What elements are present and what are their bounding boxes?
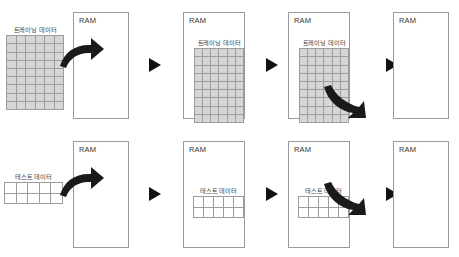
grid-cell — [300, 49, 308, 57]
grid-cell — [316, 73, 324, 81]
ram-label: RAM — [189, 17, 206, 25]
ram-label: RAM — [79, 17, 96, 25]
grid-cell — [195, 49, 203, 57]
grid-cell — [16, 60, 26, 68]
grid-cell — [26, 77, 36, 85]
load-into-ram-arrow — [58, 165, 106, 205]
table-row — [195, 106, 244, 114]
grid-cell — [211, 81, 219, 89]
grid-cell — [7, 44, 17, 52]
grid-cell — [235, 65, 243, 73]
grid-cell — [332, 65, 340, 73]
grid-cell — [195, 98, 203, 106]
grid-cell — [332, 49, 340, 57]
ram-label: RAM — [294, 146, 311, 154]
grid-cell — [16, 52, 26, 60]
grid-cell — [308, 114, 316, 122]
ram-label: RAM — [189, 146, 206, 154]
grid-cell — [214, 197, 224, 208]
grid-cell — [219, 81, 227, 89]
grid-cell — [203, 73, 211, 81]
grid-cell — [194, 207, 204, 218]
step-separator-triangle — [265, 57, 279, 73]
table-row — [5, 183, 63, 194]
grid-cell — [5, 193, 17, 204]
grid-cell — [203, 57, 211, 65]
table-row — [7, 77, 64, 85]
grid-cell — [26, 36, 36, 44]
training-data-label: 트레이닝 데이터 — [194, 40, 244, 46]
grid-cell — [203, 90, 211, 98]
grid-cell — [227, 106, 235, 114]
grid-cell — [7, 60, 17, 68]
ram-label: RAM — [399, 17, 416, 25]
grid-cell — [235, 73, 243, 81]
training-step-3-panel: RAM 트레이닝 데이터 — [280, 0, 375, 128]
grid-cell — [308, 106, 316, 114]
training-data-block-inside: 트레이닝 데이터 — [194, 40, 244, 123]
ram-label: RAM — [399, 146, 416, 154]
grid-cell — [211, 90, 219, 98]
grid-cell — [219, 98, 227, 106]
grid-cell — [26, 44, 36, 52]
grid-cell — [54, 85, 64, 93]
grid-cell — [211, 57, 219, 65]
grid-cell — [45, 101, 55, 109]
grid-cell — [35, 52, 45, 60]
table-row — [7, 93, 64, 101]
grid-cell — [332, 57, 340, 65]
grid-cell — [16, 183, 28, 194]
table-row — [300, 49, 349, 57]
grid-cell — [195, 57, 203, 65]
grid-cell — [16, 44, 26, 52]
grid-cell — [227, 65, 235, 73]
grid-cell — [54, 101, 64, 109]
table-row — [194, 197, 244, 208]
grid-cell — [7, 36, 17, 44]
grid-cell — [235, 49, 243, 57]
grid-cell — [26, 60, 36, 68]
table-row — [195, 90, 244, 98]
grid-cell — [340, 73, 348, 81]
ram-label: RAM — [294, 17, 311, 25]
training-grid-body — [195, 49, 244, 123]
grid-cell — [28, 193, 40, 204]
grid-cell — [35, 60, 45, 68]
grid-cell — [211, 73, 219, 81]
grid-cell — [219, 65, 227, 73]
grid-cell — [324, 49, 332, 57]
grid-cell — [45, 68, 55, 76]
table-row — [5, 193, 63, 204]
grid-cell — [308, 49, 316, 57]
grid-cell — [195, 90, 203, 98]
grid-cell — [308, 73, 316, 81]
grid-cell — [204, 207, 214, 218]
grid-cell — [35, 85, 45, 93]
grid-cell — [316, 57, 324, 65]
ram-box: RAM 트레이닝 데이터 — [183, 12, 245, 119]
table-row — [300, 73, 349, 81]
grid-cell — [227, 114, 235, 122]
grid-cell — [324, 65, 332, 73]
grid-cell — [308, 81, 316, 89]
table-row — [195, 114, 244, 122]
grid-cell — [195, 65, 203, 73]
grid-cell — [45, 85, 55, 93]
grid-cell — [16, 193, 28, 204]
grid-cell — [26, 93, 36, 101]
test-step-1-panel: 테스트 데이터 RAM — [0, 129, 138, 257]
table-row — [195, 49, 244, 57]
grid-cell — [219, 73, 227, 81]
grid-cell — [227, 90, 235, 98]
test-data-grid — [4, 182, 63, 204]
grid-cell — [227, 98, 235, 106]
table-row — [195, 65, 244, 73]
grid-cell — [204, 197, 214, 208]
ram-label: RAM — [79, 146, 96, 154]
grid-cell — [195, 106, 203, 114]
grid-cell — [45, 77, 55, 85]
grid-cell — [300, 98, 308, 106]
grid-cell — [227, 57, 235, 65]
grid-cell — [316, 49, 324, 57]
grid-cell — [300, 65, 308, 73]
